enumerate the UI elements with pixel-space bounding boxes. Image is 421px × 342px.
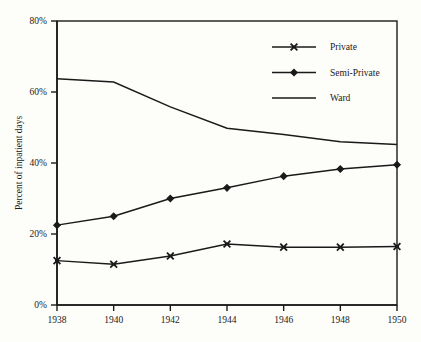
x-tick-label: 1940 [104, 315, 123, 325]
legend-label: Semi-Private [330, 68, 380, 78]
y-tick-label: 80% [30, 16, 48, 26]
y-axis-title: Percent of inpatient days [14, 116, 24, 210]
x-tick-label: 1942 [161, 315, 180, 325]
y-tick-label: 40% [30, 158, 48, 168]
chart-background [0, 0, 421, 342]
y-tick-label: 0% [34, 300, 47, 310]
chart-container: 0%20%40%60%80% 1938194019421944194619481… [0, 0, 421, 342]
y-tick-label: 20% [30, 229, 48, 239]
x-tick-label: 1950 [388, 315, 407, 325]
legend-label: Private [330, 42, 357, 52]
x-tick-label: 1948 [331, 315, 350, 325]
x-tick-label: 1946 [274, 315, 293, 325]
y-tick-label: 60% [30, 87, 48, 97]
line-chart: 0%20%40%60%80% 1938194019421944194619481… [0, 0, 421, 342]
x-tick-label: 1938 [48, 315, 67, 325]
x-tick-label: 1944 [218, 315, 237, 325]
legend-label: Ward [330, 93, 351, 103]
